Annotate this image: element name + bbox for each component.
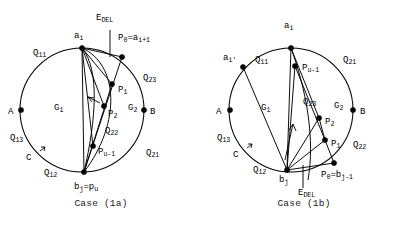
label-c: C [26,153,32,163]
label-q23: Q23 [303,97,316,108]
figure-panel-case-1b: ai ai' Pu-1 P2 P1 P0=bj-1 bj EDEL A B C … [203,0,405,228]
vertex-dot-a [18,107,23,112]
diagram-case-1b: ai ai' Pu-1 P2 P1 P0=bj-1 bj EDEL A B C … [203,0,405,200]
label-bj: bj=pu [74,182,98,193]
vertex-dot-ai [288,45,293,50]
vertex-dot-bj [284,167,289,172]
caption-case-1b: Case (1b) [203,198,405,209]
label-q12: Q12 [44,168,57,179]
label-q23: Q23 [143,73,156,84]
chord-bj-ai [287,48,291,170]
chord-bj-pu1 [287,66,295,170]
label-pu-1: Pu-1 [98,147,115,158]
label-p2: P2 [108,109,117,120]
label-q12: Q12 [253,165,266,176]
label-b: B [150,107,156,117]
label-q13: Q13 [217,133,230,144]
label-b: B [360,107,366,117]
label-p1: P1 [118,85,127,96]
figure-root: ai EDEL P0=ai+1 P1 P2 Pu-1 bj=pu A B C G… [0,0,405,228]
label-p2: P2 [325,117,334,128]
label-g1: G1 [54,103,63,114]
vertex-dot-pu-1 [90,143,95,148]
label-q21: Q21 [343,55,356,66]
label-q21: Q21 [146,148,159,159]
label-q22: Q22 [353,140,366,151]
label-ai: ai [74,31,83,42]
label-q13: Q13 [10,133,23,144]
figure-panel-case-1a: ai EDEL P0=ai+1 P1 P2 Pu-1 bj=pu A B C G… [0,0,202,228]
vertex-dot-p2 [316,115,321,120]
chord-bj-ai-prime [243,67,287,170]
vertex-dot-pu-1 [292,63,297,68]
caption-case-1a: Case (1a) [0,198,202,209]
label-q11: Q11 [255,55,268,66]
vertex-dot-bj [81,169,86,174]
label-bj: bj [279,175,288,186]
label-pu-1: Pu-1 [302,63,319,74]
diagram-case-1a: ai EDEL P0=ai+1 P1 P2 Pu-1 bj=pu A B C G… [0,0,202,200]
vertex-dot-ai [79,45,84,50]
label-c: C [233,150,239,160]
label-g2: G2 [128,103,137,114]
label-edel: EDEL [96,13,113,24]
label-q11: Q11 [33,48,46,59]
vertex-dot-p0 [331,160,336,165]
label-g2: G2 [334,101,343,112]
label-ai: ai [284,21,293,32]
vertex-dot-ai-prime [240,64,245,69]
vertex-dot-b [350,107,355,112]
label-p1: P1 [331,139,340,150]
label-a: A [216,107,222,117]
label-p0: P0=bj-1 [321,170,353,181]
vertex-dot-p0 [119,54,124,59]
vertex-dot-p2 [101,103,106,108]
vertex-dot-a [227,107,232,112]
label-ai-prime: ai' [223,53,236,64]
vertex-dot-p1 [109,81,114,86]
vertex-dot-b [141,107,146,112]
label-g1: G1 [261,103,270,114]
label-q22: Q22 [105,126,118,137]
vertex-dot-p1 [322,137,327,142]
label-a: A [8,107,14,117]
label-p0: P0=ai+1 [118,33,150,44]
